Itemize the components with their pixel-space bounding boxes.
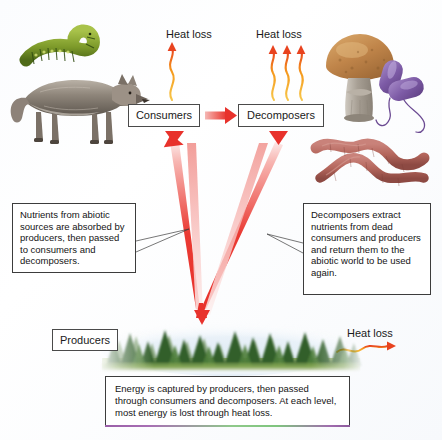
consumers-label: Consumers — [136, 110, 192, 121]
callout-nutrients-from-abiotic-sources: Nutrients from abiotic sources are absor… — [12, 203, 136, 273]
decomposers-label: Decomposers — [247, 110, 315, 121]
earthworm-illustration — [316, 143, 424, 186]
leader-line-left-callout — [136, 229, 189, 252]
leader-line-right-callout — [267, 234, 303, 253]
heat-loss-arrowhead-consumers — [168, 42, 177, 51]
callout-bottom-color-rule — [105, 425, 350, 427]
callout-energy-captured-by-producers: Energy is captured by producers, then pa… — [105, 376, 350, 426]
heat-loss-label-decomposers: Heat loss — [256, 28, 302, 40]
producers-label: Producers — [60, 335, 110, 346]
heat-loss-arrowhead-producers — [387, 341, 396, 350]
heat-loss-arrows-decomposers — [271, 51, 302, 100]
ecosystem-energy-flow-diagram: Consumers Decomposers Producers Heat los… — [0, 0, 442, 440]
conifer-forest-illustration — [100, 320, 362, 376]
heat-loss-label-producers: Heat loss — [347, 327, 393, 339]
consumers-node-box: Consumers — [128, 104, 200, 127]
bacterium-illustration — [376, 58, 426, 132]
heat-loss-label-consumers: Heat loss — [166, 28, 212, 40]
producers-node-box: Producers — [52, 329, 118, 351]
flow-nutrient-return-right — [203, 143, 268, 315]
heat-loss-arrowheads-decomposers — [269, 45, 306, 54]
flow-consumers-to-decomposers — [205, 107, 237, 124]
heat-loss-arrow-consumers — [170, 48, 174, 100]
caterpillar-illustration — [26, 31, 95, 64]
decomposers-node-box: Decomposers — [238, 104, 324, 127]
callout-decomposers-extract-nutrients: Decomposers extract nutrients from dead … — [303, 203, 431, 295]
